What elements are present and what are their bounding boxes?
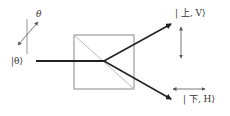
output-down-label: | 下, H⟩ (183, 95, 215, 104)
theta-angle-label: θ (36, 10, 41, 19)
input-polarization-indicator (18, 19, 38, 54)
output-beam-down (104, 61, 171, 99)
output-up-label: | 上, V⟩ (175, 9, 206, 18)
input-state-label: |θ⟩ (11, 57, 23, 66)
output-beam-up (104, 24, 171, 61)
